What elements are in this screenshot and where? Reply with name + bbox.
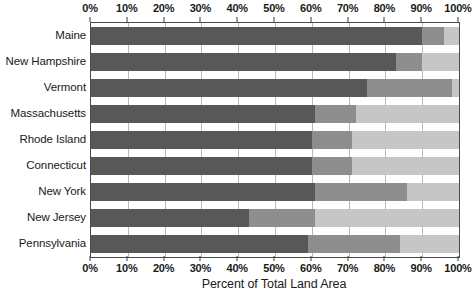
y-axis-category-label: Pennsylvania [0, 234, 86, 252]
x-tick-mark [421, 256, 422, 261]
x-tick-label: 0% [82, 262, 98, 274]
bar-segment [308, 235, 400, 253]
x-tick-label: 100% [444, 262, 471, 274]
bar-segment [91, 27, 422, 45]
bar-segment [249, 209, 315, 227]
bar-row [91, 157, 459, 175]
x-axis-tick-labels-bottom: 0%10%20%30%40%50%60%70%80%90%100% [0, 262, 474, 276]
bar-segment [91, 235, 308, 253]
y-axis-category-label: Rhode Island [0, 130, 86, 148]
y-axis-category-label: New Jersey [0, 208, 86, 226]
bar-segment [312, 157, 352, 175]
bar-segment [315, 183, 407, 201]
x-tick-label: 50% [263, 262, 284, 274]
bar-segment [356, 105, 459, 123]
x-axis-title: Percent of Total Land Area [90, 277, 458, 291]
bar-segment [422, 27, 444, 45]
x-tick-mark [384, 256, 385, 261]
x-tick-mark [237, 256, 238, 261]
y-axis-category-label: New York [0, 182, 86, 200]
x-tick-label: 20% [153, 262, 174, 274]
bar-row [91, 53, 459, 71]
bar-row [91, 131, 459, 149]
x-tick-label: 10% [116, 262, 137, 274]
x-tick-mark [126, 256, 127, 261]
bar-segment [315, 105, 355, 123]
x-tick-label: 70% [337, 2, 358, 14]
x-tick-mark [163, 256, 164, 261]
bar-segment [352, 131, 459, 149]
x-tick-label: 30% [190, 262, 211, 274]
bar-segment [452, 79, 459, 97]
x-tick-label: 100% [444, 2, 471, 14]
x-tick-mark [310, 256, 311, 261]
x-tick-label: 80% [374, 262, 395, 274]
bar-segment [315, 209, 459, 227]
bar-segment [91, 105, 315, 123]
x-tick-label: 60% [300, 262, 321, 274]
bar-row [91, 209, 459, 227]
bar-segment [91, 157, 312, 175]
y-axis-category-label: Vermont [0, 78, 86, 96]
x-tick-mark [90, 256, 91, 261]
x-tick-label: 80% [374, 2, 395, 14]
y-axis-category-labels: MaineNew HampshireVermontMassachusettsRh… [0, 22, 86, 256]
bar-row [91, 105, 459, 123]
bar-row [91, 79, 459, 97]
x-tick-mark [458, 256, 459, 261]
x-tick-label: 40% [226, 2, 247, 14]
bar-segment [91, 79, 367, 97]
bar-segment [91, 209, 249, 227]
x-axis-tick-labels-top: 0%10%20%30%40%50%60%70%80%90%100% [0, 2, 474, 16]
bar-segment [396, 53, 422, 71]
x-tick-mark [200, 256, 201, 261]
x-tick-mark [347, 256, 348, 261]
bar-segment [312, 131, 352, 149]
x-tick-label: 90% [410, 262, 431, 274]
x-tick-label: 0% [82, 2, 98, 14]
x-tick-label: 90% [410, 2, 431, 14]
bar-row [91, 27, 459, 45]
x-tick-label: 60% [300, 2, 321, 14]
y-axis-category-label: Connecticut [0, 156, 86, 174]
plot-area [90, 22, 460, 258]
stacked-bar-chart: 0%10%20%30%40%50%60%70%80%90%100% MaineN… [0, 0, 474, 296]
x-tick-label: 40% [226, 262, 247, 274]
x-tick-label: 30% [190, 2, 211, 14]
bar-segment [422, 53, 459, 71]
x-tick-label: 10% [116, 2, 137, 14]
bar-segment [91, 53, 396, 71]
x-axis-ticks-bottom [0, 256, 474, 261]
bar-row [91, 235, 459, 253]
bar-row [91, 183, 459, 201]
bar-segment [91, 131, 312, 149]
x-tick-label: 20% [153, 2, 174, 14]
bar-segment [444, 27, 459, 45]
bar-segment [400, 235, 459, 253]
bar-segment [352, 157, 459, 175]
x-tick-label: 70% [337, 262, 358, 274]
x-tick-label: 50% [263, 2, 284, 14]
bar-segment [91, 183, 315, 201]
bar-segment [407, 183, 459, 201]
y-axis-category-label: Maine [0, 26, 86, 44]
y-axis-category-label: Massachusetts [0, 104, 86, 122]
y-axis-category-label: New Hampshire [0, 52, 86, 70]
x-tick-mark [274, 256, 275, 261]
bar-segment [367, 79, 452, 97]
